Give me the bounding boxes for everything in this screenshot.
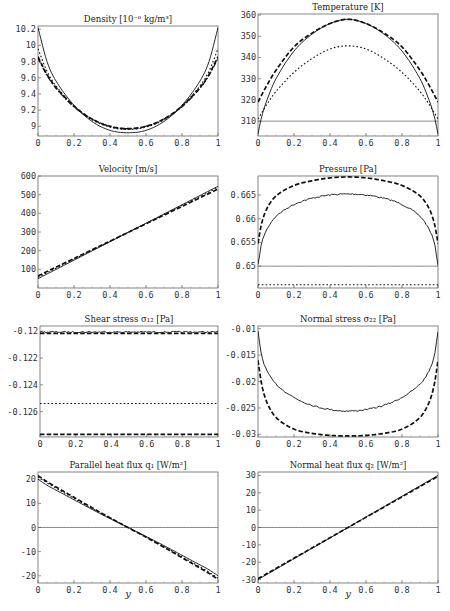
series-solid (258, 19, 438, 134)
y-tick-label: 20 (246, 488, 256, 498)
x-tick-label: 0.6 (358, 290, 373, 300)
x-tick-label: 1 (435, 585, 440, 595)
x-tick-label: 0.2 (286, 439, 301, 449)
y-tick-label: 310 (241, 116, 256, 126)
panel-1: Density [10⁻⁶ kg/m³]00.20.40.60.8199.29.… (16, 14, 221, 148)
y-tick-label: 10 (26, 498, 36, 508)
y-tick-label: -10 (21, 547, 36, 557)
y-tick-label: -20 (21, 571, 36, 581)
x-tick-label: 0 (35, 138, 40, 148)
y-tick-label: 360 (241, 10, 256, 20)
y-tick-label: 0 (251, 523, 256, 533)
y-tick-label: 340 (241, 52, 256, 62)
y-tick-label: 330 (241, 74, 256, 84)
x-tick-label: 0.8 (394, 439, 409, 449)
plot-frame (40, 326, 218, 437)
y-tick-label: 200 (21, 246, 36, 256)
y-tick-label: 100 (21, 264, 36, 274)
panel-title: Shear stress σ₁₂ [Pa] (85, 314, 174, 324)
x-tick-label: 0 (255, 585, 260, 595)
x-tick-label: 0.6 (138, 585, 153, 595)
panel-4: Pressure [Pa]00.20.40.60.810.650.6550.66… (230, 164, 440, 300)
x-tick-label: 0.4 (322, 585, 337, 595)
x-tick-label: 0.2 (68, 439, 83, 449)
x-tick-label: 0.6 (139, 439, 154, 449)
panel-title: Temperature [K] (312, 2, 383, 12)
x-tick-label: 0.6 (138, 290, 153, 300)
x-tick-label: 0.4 (102, 290, 117, 300)
x-tick-label: 0.6 (358, 138, 373, 148)
x-tick-label: 0.6 (138, 138, 153, 148)
x-tick-label: 0.8 (394, 585, 409, 595)
x-tick-label: 0 (35, 290, 40, 300)
x-tick-label: 0.2 (286, 585, 301, 595)
y-tick-label: -30 (241, 575, 256, 585)
x-tick-label: 0 (255, 439, 260, 449)
x-tick-label: 0 (35, 585, 40, 595)
y-tick-label: 0.65 (236, 261, 256, 271)
x-tick-label: 0 (255, 290, 260, 300)
panel-7: Parallel heat flux q₁ [W/m²]00.20.40.60.… (21, 460, 221, 599)
y-tick-label: 9.8 (21, 57, 36, 67)
x-tick-label: 1 (215, 439, 220, 449)
x-tick-label: 0.4 (104, 439, 119, 449)
x-axis-label: y (344, 588, 351, 599)
y-tick-label: 20 (26, 474, 36, 484)
panel-title: Parallel heat flux q₁ [W/m²] (69, 460, 186, 470)
y-tick-label: -0.126 (7, 407, 38, 417)
y-tick-label: -0.124 (7, 380, 38, 390)
y-tick-label: -20 (241, 557, 256, 567)
y-tick-label: 9.4 (21, 89, 36, 99)
series-solid (38, 186, 218, 278)
series-dashed (258, 19, 438, 102)
y-tick-label: 350 (241, 31, 256, 41)
y-tick-label: 10 (246, 505, 256, 515)
x-tick-label: 0.4 (102, 585, 117, 595)
series-solid (38, 28, 218, 133)
x-tick-label: 0.2 (66, 585, 81, 595)
y-tick-label: -0.12 (12, 326, 38, 336)
panel-title: Density [10⁻⁶ kg/m³] (84, 14, 172, 24)
x-tick-label: 1 (215, 585, 220, 595)
panel-title: Velocity [m/s] (98, 164, 158, 174)
panel-5: Shear stress σ₁₂ [Pa]00.20.40.60.81-0.12… (7, 314, 220, 449)
y-tick-label: 0.665 (230, 190, 256, 200)
series-dashed (258, 360, 438, 436)
x-tick-label: 1 (435, 439, 440, 449)
y-tick-label: -0.02 (230, 377, 256, 387)
x-tick-label: 0.8 (394, 290, 409, 300)
panel-2: Temperature [K]00.20.40.60.8131032033034… (241, 2, 441, 148)
panel-8: Normal heat flux q₂ [W/m²]00.20.40.60.81… (241, 460, 441, 599)
y-tick-label: 320 (241, 95, 256, 105)
series-solid (258, 194, 438, 266)
x-tick-label: 0.2 (66, 290, 81, 300)
x-tick-label: 0.8 (174, 585, 189, 595)
y-tick-label: 500 (21, 190, 36, 200)
y-tick-label: 400 (21, 208, 36, 218)
x-tick-label: 1 (215, 290, 220, 300)
y-tick-label: 30 (246, 470, 256, 480)
x-tick-label: 0.8 (174, 138, 189, 148)
y-tick-label: -0.01 (230, 324, 256, 334)
x-tick-label: 0.6 (358, 585, 373, 595)
series-dotted (38, 49, 218, 130)
y-tick-label: 9.6 (21, 73, 36, 83)
panel-title: Pressure [Pa] (319, 164, 377, 174)
y-tick-label: 10 (26, 40, 36, 50)
x-tick-label: 0.2 (286, 290, 301, 300)
x-tick-label: 0.2 (66, 138, 81, 148)
panel-6: Normal stress σ₂₂ [Pa]00.20.40.60.81-0.0… (225, 314, 440, 449)
y-tick-label: 9 (31, 121, 36, 131)
y-tick-label: -0.03 (230, 429, 256, 439)
x-tick-label: 0.6 (358, 439, 373, 449)
y-tick-label: 0.655 (230, 237, 256, 247)
y-tick-label: 300 (21, 227, 36, 237)
y-tick-label: 600 (21, 171, 36, 181)
y-tick-label: -10 (241, 540, 256, 550)
y-tick-label: 10.2 (16, 24, 36, 34)
x-tick-label: 0 (37, 439, 42, 449)
plot-frame (258, 176, 438, 288)
series-dashed (38, 57, 218, 129)
x-tick-label: 0.4 (322, 290, 337, 300)
x-tick-label: 0 (255, 138, 260, 148)
